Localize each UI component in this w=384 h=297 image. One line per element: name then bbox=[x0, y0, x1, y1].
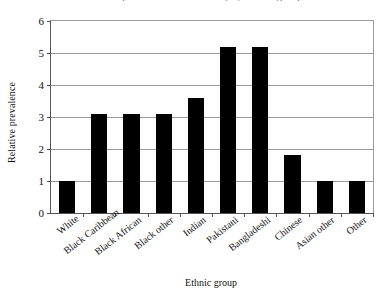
bar bbox=[91, 114, 107, 213]
x-axis-title: Ethnic group bbox=[50, 277, 372, 288]
x-axis-category-label: White bbox=[55, 214, 79, 236]
y-axis-tick-label: 1 bbox=[39, 176, 45, 187]
bar bbox=[188, 98, 204, 213]
bar bbox=[252, 47, 268, 213]
bar bbox=[220, 47, 236, 213]
bar bbox=[59, 181, 75, 213]
bars bbox=[51, 21, 373, 213]
bar-slot bbox=[83, 21, 115, 213]
y-axis-tick-label: 0 bbox=[39, 208, 45, 219]
bar-slot bbox=[115, 21, 147, 213]
bar bbox=[349, 181, 365, 213]
bar-slot bbox=[51, 21, 83, 213]
y-axis-tick-label: 4 bbox=[39, 80, 45, 91]
y-axis-tick-label: 2 bbox=[39, 144, 45, 155]
x-axis-tick-mark bbox=[373, 213, 374, 217]
bar-chart-figure: Relative prevalence of diabetes, by ethn… bbox=[0, 0, 384, 297]
bar-slot bbox=[244, 21, 276, 213]
y-axis-tick-label: 3 bbox=[39, 112, 45, 123]
bar bbox=[156, 114, 172, 213]
y-axis-title: Relative prevalence bbox=[6, 62, 24, 182]
bar-slot bbox=[309, 21, 341, 213]
bar-slot bbox=[341, 21, 373, 213]
bar-slot bbox=[180, 21, 212, 213]
y-axis-tick-label: 5 bbox=[39, 48, 45, 59]
bar-slot bbox=[276, 21, 308, 213]
bar bbox=[123, 114, 139, 213]
bar-slot bbox=[148, 21, 180, 213]
bar-slot bbox=[212, 21, 244, 213]
plot-area: 0123456 bbox=[50, 20, 374, 214]
y-axis-tick-label: 6 bbox=[39, 16, 45, 27]
bar bbox=[317, 181, 333, 213]
x-axis-category-labels: WhiteBlack CaribbeanBlack AfricanBlack o… bbox=[50, 214, 372, 276]
chart-title: Relative prevalence of diabetes, by ethn… bbox=[0, 0, 384, 1]
bar bbox=[284, 155, 300, 213]
